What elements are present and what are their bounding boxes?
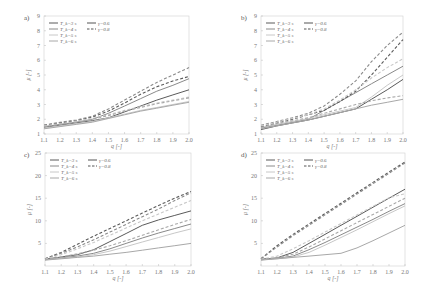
x-tick-label: 1.4 bbox=[89, 137, 97, 143]
x-tick-label: 2.0 bbox=[401, 269, 409, 275]
x-tick-label: 1.8 bbox=[369, 269, 377, 275]
x-tick-label: 1.2 bbox=[273, 137, 281, 143]
legend-entry: T_k=4 s bbox=[277, 164, 294, 169]
legend-entry: γ=0.6 bbox=[315, 21, 327, 26]
x-tick-label: 1.8 bbox=[368, 137, 376, 143]
y-tick-label: 20 bbox=[35, 173, 41, 179]
x-tick-label: 1.2 bbox=[57, 269, 65, 275]
y-tick-label: 10 bbox=[35, 218, 41, 224]
x-axis-label: q [-] bbox=[326, 143, 338, 150]
x-tick-label: 1.2 bbox=[273, 269, 281, 275]
panel-label: a) bbox=[24, 14, 30, 22]
x-tick-label: 1.9 bbox=[383, 137, 391, 143]
x-axis-label: q [-] bbox=[112, 275, 124, 282]
x-tick-label: 1.2 bbox=[56, 137, 64, 143]
x-tick-label: 1.7 bbox=[352, 137, 360, 143]
x-axis-label: q [-] bbox=[327, 275, 339, 282]
y-tick-label: 3 bbox=[254, 102, 257, 108]
y-axis-label: μ [-] bbox=[242, 69, 249, 81]
legend-entry: T_k=6 s bbox=[277, 176, 294, 181]
series-line bbox=[261, 99, 403, 129]
y-tick-label: 10 bbox=[251, 218, 257, 224]
y-axis-label: μ [-] bbox=[25, 69, 32, 81]
y-tick-label: 1 bbox=[37, 131, 40, 137]
y-tick-label: 8 bbox=[254, 28, 257, 34]
y-axis-label: μ [-] bbox=[26, 203, 33, 215]
y-tick-label: 15 bbox=[251, 195, 257, 201]
legend-entry: T_k=5 s bbox=[277, 33, 294, 38]
y-tick-label: 4 bbox=[37, 87, 40, 93]
y-tick-label: 6 bbox=[37, 57, 40, 63]
y-tick-label: 15 bbox=[35, 195, 41, 201]
x-tick-label: 2.0 bbox=[399, 137, 407, 143]
legend-entry: γ=0.8 bbox=[98, 27, 110, 32]
series-line bbox=[44, 79, 189, 127]
legend-entry: T_k=5 s bbox=[61, 170, 78, 175]
series-line bbox=[261, 40, 403, 127]
series-line bbox=[261, 66, 403, 128]
x-tick-label: 1.4 bbox=[305, 269, 313, 275]
y-tick-label: 25 bbox=[35, 150, 41, 156]
x-tick-label: 1.7 bbox=[139, 269, 147, 275]
x-tick-label: 1.3 bbox=[289, 137, 297, 143]
series-line bbox=[45, 224, 191, 260]
legend-entry: T_k=3 s bbox=[277, 21, 294, 26]
y-tick-label: 8 bbox=[37, 28, 40, 34]
legend-entry: T_k=3 s bbox=[60, 21, 77, 26]
subplot-c: c)1.11.21.31.41.51.61.71.81.92.051015202… bbox=[24, 150, 195, 282]
legend-entry: γ=0.6 bbox=[99, 158, 111, 163]
x-tick-label: 1.8 bbox=[155, 269, 163, 275]
subplot-b: b)1.11.21.31.41.51.61.71.81.92.012345678… bbox=[241, 13, 407, 150]
y-tick-label: 9 bbox=[254, 13, 257, 19]
y-tick-label: 7 bbox=[254, 43, 257, 49]
subplot-a: a)1.11.21.31.41.51.61.71.81.92.012345678… bbox=[24, 13, 193, 150]
panel-label: b) bbox=[241, 14, 248, 22]
y-tick-label: 2 bbox=[254, 116, 257, 122]
x-tick-label: 1.1 bbox=[41, 269, 49, 275]
legend-entry: T_k=3 s bbox=[277, 158, 294, 163]
legend: T_k=3 sT_k=4 sT_k=5 sT_k=6 sγ=0.6γ=0.8 bbox=[266, 21, 327, 44]
y-tick-label: 1 bbox=[254, 131, 257, 137]
legend-entry: γ=0.6 bbox=[98, 21, 110, 26]
legend-entry: T_k=5 s bbox=[277, 170, 294, 175]
x-tick-label: 1.1 bbox=[40, 137, 48, 143]
subplot-d: d)1.11.21.31.41.51.61.71.81.92.051015202… bbox=[241, 150, 409, 282]
y-tick-label: 9 bbox=[37, 13, 40, 19]
x-axis-label: q [-] bbox=[111, 143, 123, 150]
y-tick-label: 5 bbox=[254, 240, 257, 246]
y-tick-label: 5 bbox=[254, 72, 257, 78]
panel-label: c) bbox=[24, 151, 30, 159]
x-tick-label: 1.3 bbox=[74, 269, 82, 275]
legend-entry: T_k=6 s bbox=[60, 39, 77, 44]
panel-label: d) bbox=[241, 151, 248, 159]
x-tick-label: 1.8 bbox=[153, 137, 161, 143]
y-tick-label: 5 bbox=[37, 72, 40, 78]
x-tick-label: 1.1 bbox=[257, 137, 265, 143]
legend-entry: γ=0.8 bbox=[315, 164, 327, 169]
x-tick-label: 1.3 bbox=[289, 269, 297, 275]
legend-entry: T_k=4 s bbox=[277, 27, 294, 32]
legend: T_k=3 sT_k=4 sT_k=5 sT_k=6 sγ=0.6γ=0.8 bbox=[49, 21, 110, 44]
series-line bbox=[261, 75, 403, 127]
x-tick-label: 1.9 bbox=[385, 269, 393, 275]
x-tick-label: 1.1 bbox=[257, 269, 265, 275]
series-line bbox=[45, 229, 191, 260]
legend-entry: T_k=6 s bbox=[277, 39, 294, 44]
figure: a)1.11.21.31.41.51.61.71.81.92.012345678… bbox=[0, 0, 431, 291]
series-line bbox=[261, 59, 403, 126]
x-tick-label: 1.7 bbox=[353, 269, 361, 275]
x-tick-label: 1.4 bbox=[90, 269, 98, 275]
x-tick-label: 2.0 bbox=[185, 137, 193, 143]
x-tick-label: 1.9 bbox=[169, 137, 177, 143]
x-tick-label: 1.7 bbox=[137, 137, 145, 143]
legend-entry: T_k=6 s bbox=[61, 176, 78, 181]
y-tick-label: 4 bbox=[254, 87, 257, 93]
series-line bbox=[261, 204, 405, 260]
y-tick-label: 20 bbox=[251, 173, 257, 179]
legend: T_k=3 sT_k=4 sT_k=5 sT_k=6 sγ=0.6γ=0.8 bbox=[50, 158, 111, 181]
y-tick-label: 6 bbox=[254, 57, 257, 63]
series-line bbox=[261, 189, 405, 259]
series-line bbox=[261, 198, 405, 260]
y-tick-label: 2 bbox=[37, 116, 40, 122]
legend-entry: T_k=5 s bbox=[60, 33, 77, 38]
